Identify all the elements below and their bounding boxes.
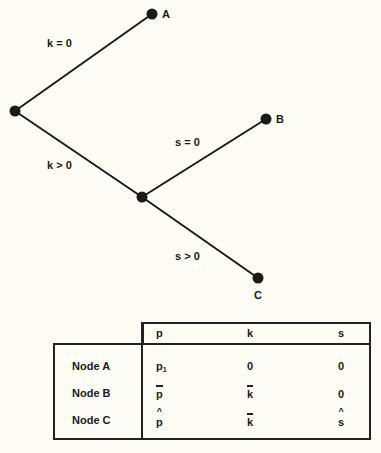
edge-label-k-positive: k > 0 <box>47 159 72 171</box>
cell-c-k: k <box>247 416 253 428</box>
row-label-node-a: Node A <box>72 360 110 372</box>
edge-mid-B <box>142 119 266 197</box>
column-header-k: k <box>247 327 253 339</box>
edge-root-mid <box>15 111 142 197</box>
table-column-separator <box>141 322 143 440</box>
cell-c-s: s <box>338 416 344 428</box>
column-header-p: p <box>156 327 163 339</box>
edge-label-s-positive: s > 0 <box>175 250 200 262</box>
node-label-B: B <box>276 113 284 125</box>
row-label-node-c: Node C <box>72 414 111 426</box>
table-header-box <box>142 322 371 343</box>
node-A <box>147 9 158 20</box>
node-root <box>10 106 21 117</box>
node-label-C: C <box>254 289 262 301</box>
cell-b-s: 0 <box>338 388 344 400</box>
cell-c-p: p <box>156 416 163 428</box>
node-B <box>261 114 272 125</box>
node-label-A: A <box>162 8 170 20</box>
node-C <box>253 273 264 284</box>
cell-b-k: k <box>247 388 253 400</box>
cell-a-s: 0 <box>338 360 344 372</box>
edge-label-s-zero: s = 0 <box>175 136 200 148</box>
edge-root-A <box>15 14 152 111</box>
column-header-s: s <box>338 327 344 339</box>
node-mid <box>137 192 148 203</box>
edge-label-k-zero: k = 0 <box>47 37 72 49</box>
cell-a-p: p1 <box>156 360 167 373</box>
cell-a-k: 0 <box>247 360 253 372</box>
row-label-node-b: Node B <box>72 387 111 399</box>
cell-b-p: p <box>156 388 163 400</box>
edge-mid-C <box>142 197 258 278</box>
